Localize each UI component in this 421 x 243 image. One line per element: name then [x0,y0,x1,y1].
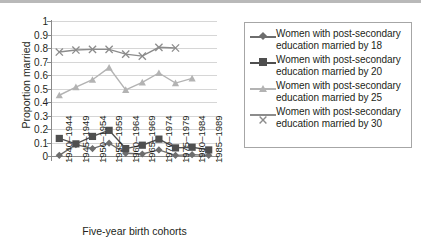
legend-item-cross[interactable]: Women with post-secondaryeducation marri… [245,106,411,129]
legend-label: Women with post-secondaryeducation marri… [276,106,401,129]
x-axis-tick-label: 1970–1974 [163,115,174,163]
x-axis-tick-label: 1950–1954 [97,115,108,163]
x-axis-tick-mark [84,157,85,161]
legend-key-cross-icon [250,108,276,121]
data-point-triangle [72,84,79,91]
y-axis-tick-mark [47,129,51,130]
x-axis-tick-mark [217,157,218,161]
y-axis-tick-label: 0.7 [24,56,48,67]
x-axis-tick-label: 1940–1944 [63,115,74,163]
y-axis-tick-label: 0.9 [24,29,48,40]
y-axis-tick-label: 0.2 [24,124,48,135]
x-axis-tick-mark [134,157,135,161]
y-axis-tick-label: 0 [24,151,48,162]
x-axis-tick-label: 1945–1949 [80,115,91,163]
x-axis-tick-label: 1965–1969 [146,115,157,163]
y-axis-tick-mark [47,35,51,36]
legend-label-line1: Women with post-secondary [276,80,401,92]
legend-label-line2: education married by 30 [276,118,401,130]
data-point-triangle [56,92,63,99]
page-edge-strip [0,0,421,3]
legend-item-diamond[interactable]: Women with post-secondaryeducation marri… [245,28,411,51]
x-axis-tick-label: 1960–1964 [130,115,141,163]
y-axis-tick-mark [47,143,51,144]
y-axis-tick-label: 0.1 [24,137,48,148]
legend-marker-diamond-icon [259,32,267,40]
x-axis-title: Five-year birth cohorts [51,225,218,237]
y-axis-tick-mark [47,75,51,76]
legend-item-triangle[interactable]: Women with post-secondaryeducation marri… [245,80,411,103]
legend-label: Women with post-secondaryeducation marri… [276,28,401,51]
data-point-triangle [106,64,113,71]
legend-marker-triangle-icon [259,85,267,92]
x-axis-tick-label: 1975–1979 [180,115,191,163]
y-axis-tick-label: 0.6 [24,70,48,81]
x-axis-tick-label: 1955–1959 [113,115,124,163]
x-axis-tick-mark [167,157,168,161]
y-axis-tick-label: 0.8 [24,43,48,54]
x-axis-tick-label: 1985–1989 [213,115,224,163]
legend-label: Women with post-secondaryeducation marri… [276,54,401,77]
legend-label-line1: Women with post-secondary [276,54,401,66]
legend-marker-square-icon [259,58,267,66]
chart-legend: Women with post-secondaryeducation marri… [244,22,412,148]
legend-label-line2: education married by 20 [276,66,401,78]
legend-label-line1: Women with post-secondary [276,106,401,118]
legend-label: Women with post-secondaryeducation marri… [276,80,401,103]
x-axis-tick-mark [101,157,102,161]
data-point-triangle [155,69,162,76]
y-axis-tick-labels: 10.90.80.70.60.50.40.30.20.10 [24,16,48,156]
y-axis-tick-mark [47,62,51,63]
legend-key-diamond-icon [250,30,276,43]
data-point-square [56,135,63,142]
chart-figure: Proportion married 10.90.80.70.60.50.40.… [0,0,421,243]
y-axis-tick-label: 1 [24,16,48,27]
y-axis-tick-mark [47,102,51,103]
y-axis-tick-label: 0.3 [24,110,48,121]
legend-label-line1: Women with post-secondary [276,28,401,40]
series-cross [56,44,179,60]
legend-marker-cross-icon [259,110,267,118]
x-axis-tick-mark [68,157,69,161]
x-axis-tick-mark [200,157,201,161]
legend-key-square-icon [250,56,276,69]
data-point-diamond [56,152,63,159]
x-axis-tick-label: 1980–1984 [196,115,207,163]
data-point-triangle [189,75,196,82]
series-triangle [56,64,196,98]
x-axis-tick-mark [184,157,185,161]
x-axis-tick-mark [117,157,118,161]
legend-item-square[interactable]: Women with post-secondaryeducation marri… [245,54,411,77]
data-point-triangle [139,79,146,86]
legend-label-line2: education married by 18 [276,40,401,52]
x-axis-tick-mark [151,157,152,161]
x-axis-tick-mark [51,157,52,161]
legend-label-line2: education married by 25 [276,92,401,104]
y-axis-tick-mark [47,21,51,22]
y-axis-tick-mark [47,89,51,90]
y-axis-tick-mark [47,116,51,117]
legend-key-triangle-icon [250,82,276,95]
y-axis-tick-label: 0.5 [24,83,48,94]
y-axis-tick-mark [47,48,51,49]
y-axis-tick-label: 0.4 [24,97,48,108]
